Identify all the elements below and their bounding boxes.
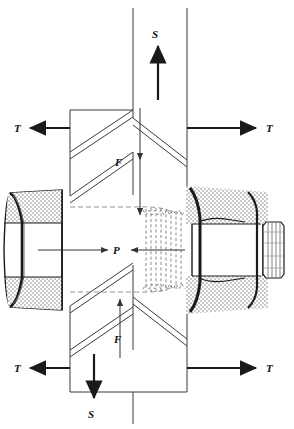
label-T-bottom-right: T	[266, 362, 274, 374]
force-arrow-S-top: S	[152, 28, 158, 100]
label-S-top: S	[152, 28, 158, 40]
force-arrow-T-bottom-right: T	[187, 362, 274, 374]
label-F-top: F	[114, 156, 123, 168]
label-S-bottom: S	[88, 408, 94, 420]
front-plate	[70, 110, 133, 392]
label-F-bottom: F	[113, 333, 122, 345]
bolted-joint-figure: S S T T T T F F P	[0, 0, 294, 429]
rear-plate	[133, 8, 187, 424]
force-arrow-T-top-left: T	[14, 122, 70, 134]
label-P: P	[113, 244, 120, 256]
force-arrow-S-bottom: S	[88, 354, 94, 420]
force-arrow-F-top: F	[114, 108, 140, 215]
bolt-thread-protrusion	[263, 222, 284, 278]
force-arrow-T-bottom-left: T	[14, 362, 70, 374]
nut	[186, 186, 268, 316]
force-arrow-F-bottom: F	[113, 299, 122, 358]
force-arrow-T-top-right: T	[187, 122, 274, 134]
label-T-bottom-left: T	[14, 362, 22, 374]
label-T-top-left: T	[14, 122, 22, 134]
joint-diagram-svg: S S T T T T F F P	[0, 0, 294, 429]
label-T-top-right: T	[266, 122, 274, 134]
